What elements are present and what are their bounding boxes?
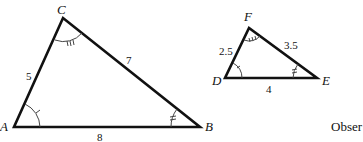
vertex-label-f: F <box>243 9 253 24</box>
side-label-ab: 8 <box>97 131 103 142</box>
trailing-text: Obser <box>331 119 363 134</box>
vertex-label-c: C <box>57 2 66 17</box>
side-label-ac: 5 <box>26 70 32 82</box>
angle-mark-b <box>171 109 177 127</box>
side-label-df: 2.5 <box>219 45 233 57</box>
vertex-label-b: B <box>205 119 213 134</box>
similar-triangles-diagram: A B C 5 7 8 D E F 2.5 3.5 4 Obser <box>0 0 363 142</box>
vertex-label-d: D <box>211 73 222 88</box>
angle-mark-a <box>25 104 40 127</box>
side-label-de: 4 <box>266 83 272 95</box>
angle-mark-d <box>233 63 242 78</box>
vertex-label-e: E <box>321 73 330 88</box>
side-label-cb: 7 <box>126 54 132 66</box>
angle-mark-c <box>55 33 82 42</box>
angle-mark-e <box>293 64 298 78</box>
triangle-abc <box>14 18 200 127</box>
vertex-label-a: A <box>0 119 8 134</box>
triangle-def <box>225 28 317 78</box>
side-label-fe: 3.5 <box>284 39 298 51</box>
